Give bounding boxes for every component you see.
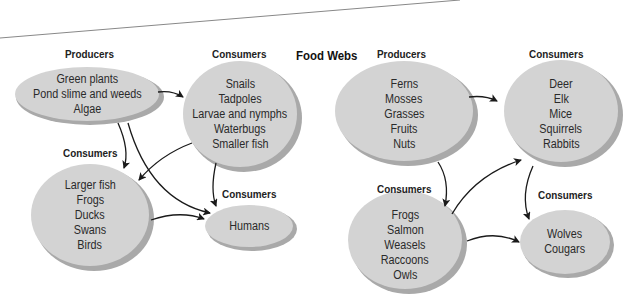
node-item: Frogs — [76, 193, 104, 208]
node-web2-producers: Ferns Mosses Grasses Fruits Nuts — [335, 72, 473, 156]
header-divider-line — [0, 0, 460, 38]
arrow-producers-to-secondary — [118, 123, 126, 168]
node-item: Waterbugs — [214, 122, 266, 137]
arrow-secondary-to-humans — [151, 215, 204, 220]
node-item: Elk — [553, 92, 568, 107]
node-item: Fruits — [391, 122, 418, 137]
node-item: Cougars — [545, 242, 586, 257]
label-web1-consumers-primary: Consumers — [212, 48, 266, 60]
node-item: Tadpoles — [218, 92, 261, 107]
node-item: Weasels — [384, 238, 425, 253]
label-web1-consumers-secondary: Consumers — [63, 147, 117, 159]
node-item: Frogs — [391, 208, 419, 223]
node-item: Salmon — [387, 223, 424, 238]
node-web1-consumers-secondary: Larger fish Frogs Ducks Swans Birds — [31, 173, 149, 257]
node-web1-consumers-top: Humans — [205, 215, 293, 237]
node-item: Larvae and nymphs — [193, 107, 288, 122]
node-item: Wolves — [547, 227, 582, 242]
node-item: Ducks — [75, 208, 105, 223]
label-web1-producers: Producers — [65, 48, 114, 60]
diagram-title: Food Webs — [296, 48, 357, 63]
label-web1-consumers-top: Consumers — [222, 188, 276, 200]
node-item: Rabbits — [543, 137, 580, 152]
arrow-producers-to-secondary — [438, 162, 446, 206]
arrow-secondary-to-primary — [452, 160, 521, 214]
node-item: Mosses — [385, 92, 422, 107]
node-item: Swans — [74, 223, 106, 238]
node-item: Pond slime and weeds — [33, 87, 142, 102]
node-item: Larger fish — [64, 178, 115, 193]
node-web1-producers: Green plants Pond slime and weeds Algae — [15, 67, 159, 121]
label-web2-consumers-secondary: Consumers — [377, 183, 431, 195]
node-web2-consumers-top: Wolves Cougars — [520, 225, 610, 259]
label-web2-consumers-primary: Consumers — [529, 48, 583, 60]
node-web2-consumers-primary: Deer Elk Mice Squirrels Rabbits — [504, 72, 618, 156]
node-item: Green plants — [56, 72, 118, 87]
node-item: Grasses — [384, 107, 424, 122]
node-item: Humans — [229, 219, 269, 234]
node-item: Mice — [550, 107, 573, 122]
node-item: Ferns — [390, 77, 418, 92]
node-item: Raccoons — [381, 253, 429, 268]
arrow-primary-to-humans — [213, 163, 216, 206]
node-item: Deer — [549, 77, 572, 92]
node-item: Algae — [73, 102, 101, 117]
node-web1-consumers-primary: Snails Tadpoles Larvae and nymphs Waterb… — [183, 72, 297, 156]
arrow-secondary-to-top — [467, 236, 519, 242]
node-item: Nuts — [393, 137, 415, 152]
arrow-primary-to-top — [525, 166, 533, 219]
node-item: Owls — [393, 268, 417, 283]
node-item: Squirrels — [540, 122, 583, 137]
node-item: Smaller fish — [212, 137, 268, 152]
node-item: Snails — [225, 77, 254, 92]
label-web2-consumers-top: Consumers — [538, 189, 592, 201]
node-item: Birds — [78, 238, 103, 253]
label-web2-producers: Producers — [377, 48, 426, 60]
node-web2-consumers-secondary: Frogs Salmon Weasels Raccoons Owls — [348, 203, 462, 287]
